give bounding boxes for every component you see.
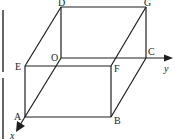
y-axis-arrow-icon [164,55,173,62]
label-F: F [114,63,120,74]
x-axis [20,58,61,125]
label-O: O [51,52,58,63]
label-x-axis: x [9,130,15,139]
diagram-canvas: D G O C E F A B y x [0,0,175,139]
x-axis-arrow-icon [16,121,25,132]
label-B: B [114,115,121,126]
label-G: G [144,0,151,8]
label-C: C [148,46,155,57]
cuboid-edges [25,7,146,117]
label-E: E [15,61,21,72]
edge-GF [111,7,146,66]
label-y-axis: y [163,63,169,74]
label-A: A [14,111,22,122]
label-D: D [58,0,65,8]
cuboid-diagram: D G O C E F A B y x [0,0,175,139]
